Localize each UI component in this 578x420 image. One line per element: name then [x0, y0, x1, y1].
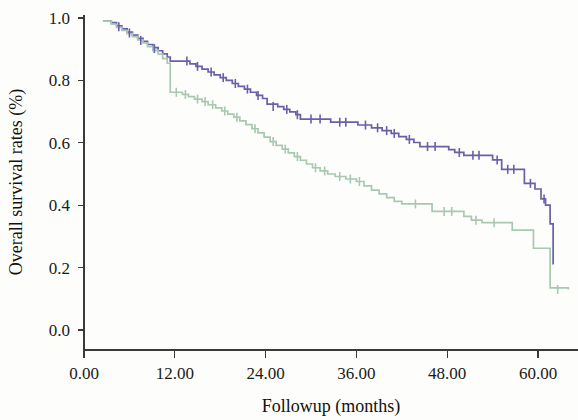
- y-axis-ticks: 0.00.20.40.60.81.0: [49, 9, 84, 340]
- y-axis-title: Overall survival rates (%): [6, 89, 27, 275]
- y-tick-label: 0.6: [49, 134, 70, 153]
- x-tick-label: 60.00: [519, 364, 557, 383]
- x-axis-title: Followup (months): [262, 396, 401, 417]
- survival-chart-figure: 0.00.20.40.60.81.0 0.0012.0024.0036.0048…: [0, 0, 578, 420]
- y-tick-label: 0.8: [49, 71, 70, 90]
- y-tick-label: 0.4: [49, 196, 71, 215]
- x-tick-label: 12.00: [156, 364, 194, 383]
- y-tick-label: 0.0: [49, 321, 70, 340]
- x-tick-label: 24.00: [246, 364, 284, 383]
- x-tick-label: 48.00: [428, 364, 466, 383]
- survival-curves-group: [103, 21, 568, 289]
- y-tick-label: 0.2: [49, 259, 70, 278]
- x-tick-label: 0.00: [69, 364, 99, 383]
- x-tick-label: 36.00: [337, 364, 375, 383]
- kaplan-meier-plot: 0.00.20.40.60.81.0 0.0012.0024.0036.0048…: [0, 0, 578, 420]
- x-axis-ticks: 0.0012.0024.0036.0048.0060.00: [69, 350, 557, 383]
- y-tick-label: 1.0: [49, 9, 70, 28]
- survival-curve-group-1-upper-curve: [103, 21, 553, 264]
